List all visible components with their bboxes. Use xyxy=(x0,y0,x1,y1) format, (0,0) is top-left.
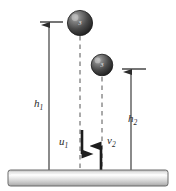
ball-top-marking: 3 xyxy=(74,20,86,26)
label-v2: v2 xyxy=(107,135,116,149)
physics-diagram: 3 3 h1 h2 u1 v2 xyxy=(0,0,176,191)
diagram-canvas xyxy=(0,0,176,191)
ball-lower-marking: 3 xyxy=(96,62,108,68)
label-h1: h1 xyxy=(34,98,43,112)
ground-bar xyxy=(8,170,168,186)
label-u1-sub: 1 xyxy=(65,141,69,150)
label-h2-sub: 2 xyxy=(134,118,138,127)
label-v2-sub: 2 xyxy=(112,140,116,149)
label-h2: h2 xyxy=(128,113,137,127)
label-u1: u1 xyxy=(59,136,68,150)
label-h1-sub: 1 xyxy=(40,103,44,112)
